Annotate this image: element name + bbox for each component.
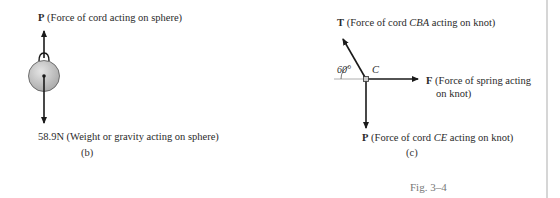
- weight-value: 58.9N: [38, 131, 64, 142]
- sphere-diagram: [29, 31, 60, 123]
- label-weight: 58.9N (Weight or gravity acting on spher…: [38, 131, 219, 143]
- label-t: T (Force of cord CBA acting on knot): [337, 17, 495, 29]
- label-p-knot: P (Force of cord CE acting on knot): [362, 132, 513, 144]
- symbol-f: F: [426, 75, 432, 86]
- weight-description: (Weight or gravity acting on sphere): [67, 131, 219, 142]
- label-f: F (Force of spring acting: [426, 75, 531, 87]
- symbol-p: P: [38, 12, 44, 23]
- symbol-t: T: [337, 17, 344, 28]
- caption-b: (b): [81, 147, 93, 158]
- angle-label: 60°: [337, 64, 351, 76]
- knot-label: C: [372, 64, 379, 76]
- label-p-knot-pre: (Force of cord: [371, 132, 434, 143]
- label-p-sphere: P (Force of cord acting on sphere): [38, 12, 182, 24]
- sphere-center-dot: [42, 74, 46, 78]
- label-t-post: acting on knot): [429, 17, 495, 28]
- symbol-p-knot: P: [362, 132, 368, 143]
- label-t-italic: CBA: [409, 17, 429, 28]
- page-divider: [546, 0, 548, 198]
- label-f-line2: on knot): [436, 88, 471, 100]
- free-body-diagrams: [0, 0, 560, 198]
- caption-c: (c): [406, 147, 418, 158]
- label-f-line1: (Force of spring acting: [435, 75, 531, 86]
- label-p-knot-italic: CE: [434, 132, 447, 143]
- label-p-description: (Force of cord acting on sphere): [47, 12, 182, 23]
- label-p-knot-post: acting on knot): [447, 132, 513, 143]
- knot-diagram: [334, 39, 418, 128]
- label-t-pre: (Force of cord: [347, 17, 410, 28]
- figure-caption: Fig. 3–4: [410, 181, 447, 193]
- knot-c: [364, 77, 369, 82]
